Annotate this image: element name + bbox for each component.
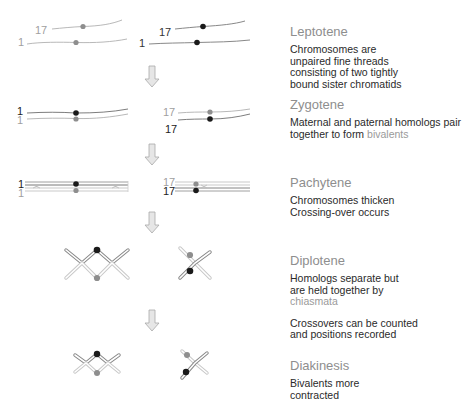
centromere-paternal xyxy=(207,116,213,122)
chr-17-label: 17 xyxy=(163,185,175,197)
down-arrow-icon xyxy=(145,66,159,87)
description-text: Crossing-over occurs xyxy=(290,206,389,218)
centromere-maternal xyxy=(94,275,100,281)
centromere-paternal xyxy=(183,369,189,375)
centromere-maternal xyxy=(73,40,78,45)
stage-title: Zygotene xyxy=(290,97,462,112)
chr-1-label: 1 xyxy=(17,114,23,126)
centromere-paternal xyxy=(194,40,200,46)
centromere-paternal xyxy=(200,24,206,30)
centromere-maternal xyxy=(207,109,212,114)
term-chiasmata: chiasmata xyxy=(290,295,338,307)
centromere-paternal xyxy=(94,351,100,357)
chr-17-label: 17 xyxy=(35,24,47,36)
centromere-maternal xyxy=(80,24,85,29)
stage-diplotene: Diplotene Homologs separate but are held… xyxy=(290,253,462,341)
centromere-maternal xyxy=(184,352,190,358)
pachytene-illustration: 1 1 17 17 xyxy=(18,176,250,199)
description-text: Homologs separate but are held together … xyxy=(290,272,399,296)
description-text: Chromosomes thicken xyxy=(290,194,394,206)
stage-title: Diakinesis xyxy=(290,358,462,373)
stage-description: Bivalents more contracted xyxy=(290,378,370,401)
down-arrow-icon xyxy=(145,144,159,165)
stage-title: Leptotene xyxy=(290,24,462,39)
centromere-paternal xyxy=(73,110,79,116)
stage-description: Chromosomes thickenCrossing-over occurs xyxy=(290,195,462,218)
stage-title: Pachytene xyxy=(290,175,462,190)
paternal-chromosome-17 xyxy=(178,114,250,120)
centromere-paternal xyxy=(73,181,79,187)
zygotene-illustration: 1 1 17 17 xyxy=(17,105,250,135)
bivalent-chromosome-1 xyxy=(66,250,128,278)
maternal-chromosome-17 xyxy=(178,109,250,113)
stage-zygotene: Zygotene Maternal and paternal homologs … xyxy=(290,97,462,140)
chr-1-label: 1 xyxy=(18,36,24,48)
bivalent-chromosome-17 xyxy=(180,248,210,278)
bivalent-chromosome-17 xyxy=(175,182,250,191)
stage-description: Maternal and paternal homologs pair toge… xyxy=(290,117,462,140)
down-arrow-icon xyxy=(145,310,159,331)
down-arrow-icon xyxy=(145,212,159,233)
centromere-maternal xyxy=(193,181,198,186)
stage-diakinesis: Diakinesis Bivalents more contracted xyxy=(290,358,462,401)
stage-description-2: Crossovers can be counted and positions … xyxy=(290,318,425,341)
chr-17-label: 17 xyxy=(165,123,177,135)
diplotene-illustration xyxy=(66,247,210,281)
description-text: Bivalents more contracted xyxy=(290,377,359,401)
centromere-maternal xyxy=(187,252,193,258)
stage-pachytene: Pachytene Chromosomes thickenCrossing-ov… xyxy=(290,175,462,218)
centromere-maternal xyxy=(73,188,78,193)
chromosome-17-thread xyxy=(175,21,245,29)
chr-1-label: 1 xyxy=(139,37,145,49)
chr-1-label: 1 xyxy=(18,187,24,199)
chr-17-label: 17 xyxy=(159,26,171,38)
centromere-maternal xyxy=(94,370,100,376)
description-text: Chromosomes are unpaired fine threads co… xyxy=(290,43,401,90)
chromosome-17-thread xyxy=(52,20,122,29)
description-text: Crossovers can be counted and positions … xyxy=(290,317,418,341)
centromere-paternal xyxy=(193,188,199,194)
stage-leptotene: Leptotene Chromosomes are unpaired fine … xyxy=(290,24,462,90)
term-bivalents: bivalents xyxy=(367,128,408,140)
centromere-paternal xyxy=(187,268,194,275)
stage-title: Diplotene xyxy=(290,253,462,268)
leptotene-illustration: 17 1 17 1 xyxy=(18,20,250,49)
centromere-maternal xyxy=(73,116,78,121)
centromere-paternal xyxy=(94,247,101,254)
diakinesis-illustration xyxy=(75,351,207,378)
stage-description: Chromosomes are unpaired fine threads co… xyxy=(290,44,420,90)
chr-17-label: 17 xyxy=(163,106,175,118)
stage-description: Homologs separate but are held together … xyxy=(290,273,410,308)
